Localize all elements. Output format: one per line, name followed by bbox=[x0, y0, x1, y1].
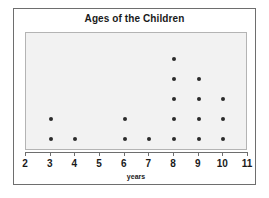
x-axis-tick bbox=[173, 152, 174, 156]
x-axis-tick bbox=[148, 152, 149, 156]
x-axis-tick bbox=[247, 152, 248, 156]
dot-plot-figure: Ages of the Children 234567891011 years bbox=[0, 0, 269, 198]
x-axis-tick bbox=[50, 152, 51, 156]
plot-area bbox=[25, 32, 247, 150]
dot-series-layer bbox=[26, 33, 246, 149]
x-axis-tick-label: 8 bbox=[160, 158, 186, 170]
data-point bbox=[172, 77, 176, 81]
data-point bbox=[172, 57, 176, 61]
x-axis-line bbox=[25, 152, 247, 153]
x-axis-tick-label: 7 bbox=[135, 158, 161, 170]
data-point bbox=[147, 137, 151, 141]
data-point bbox=[197, 117, 201, 121]
x-axis-tick-label: 2 bbox=[12, 158, 38, 170]
data-point bbox=[123, 137, 127, 141]
data-point bbox=[73, 137, 77, 141]
x-axis-tick bbox=[124, 152, 125, 156]
x-axis-tick-label: 6 bbox=[111, 158, 137, 170]
x-axis-tick-label: 11 bbox=[234, 158, 260, 170]
x-axis-tick bbox=[99, 152, 100, 156]
x-axis-tick bbox=[222, 152, 223, 156]
x-axis-tick bbox=[74, 152, 75, 156]
data-point bbox=[49, 137, 53, 141]
data-point bbox=[197, 137, 201, 141]
x-axis-tick-label: 3 bbox=[37, 158, 63, 170]
x-axis-tick-label: 4 bbox=[61, 158, 87, 170]
data-point bbox=[172, 137, 176, 141]
data-point bbox=[172, 97, 176, 101]
x-axis-tick-label: 10 bbox=[209, 158, 235, 170]
data-point bbox=[123, 117, 127, 121]
x-axis-tick bbox=[25, 152, 26, 156]
x-axis-label: years bbox=[25, 172, 247, 181]
data-point bbox=[221, 137, 225, 141]
data-point bbox=[221, 117, 225, 121]
x-axis-tick-label: 5 bbox=[86, 158, 112, 170]
chart-title: Ages of the Children bbox=[13, 13, 256, 25]
data-point bbox=[172, 117, 176, 121]
x-axis-tick-label: 9 bbox=[185, 158, 211, 170]
data-point bbox=[197, 97, 201, 101]
x-axis-tick bbox=[198, 152, 199, 156]
data-point bbox=[49, 117, 53, 121]
data-point bbox=[197, 77, 201, 81]
data-point bbox=[221, 97, 225, 101]
